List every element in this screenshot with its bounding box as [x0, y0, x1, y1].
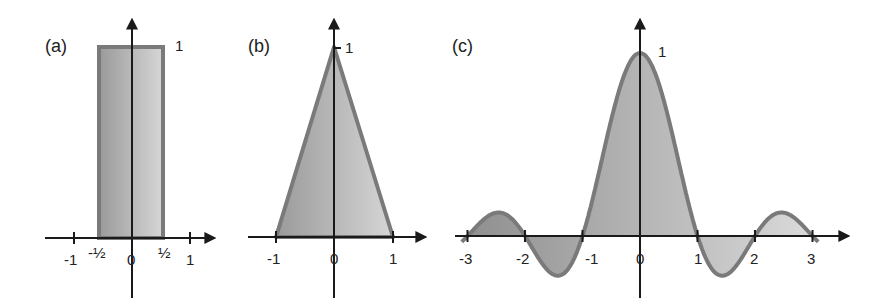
- tick-label: -1: [267, 250, 280, 267]
- tick-label: 0: [127, 251, 135, 268]
- tick-label: 3: [807, 250, 815, 267]
- tick-label: 1: [694, 250, 702, 267]
- tick-label: ½: [158, 244, 171, 261]
- panel-b-label: (b): [248, 36, 270, 56]
- tick-label: 1: [186, 251, 194, 268]
- peak-label: 1: [175, 37, 183, 54]
- tick-label: -3: [459, 250, 472, 267]
- panel-a-label: (a): [45, 36, 67, 56]
- panel-a: (a) 1 -1 -½ 0 ½ 1: [45, 20, 214, 298]
- tick-label: 0: [636, 250, 644, 267]
- panel-b: (b) 1 -1 0 1: [248, 20, 425, 298]
- panel-c: (c) 1 -3 -2 -1 0 1 2 3: [452, 20, 848, 298]
- peak-label: 1: [345, 39, 353, 56]
- tick-label: -1: [585, 250, 598, 267]
- panel-c-label: (c): [452, 36, 473, 56]
- tick-label: -1: [64, 251, 77, 268]
- figure-canvas: (a) 1 -1 -½ 0 ½ 1 (b) 1 -1 0 1 (c) 1 -3: [0, 0, 886, 304]
- tick-label: 1: [389, 250, 397, 267]
- tick-label: -½: [88, 244, 106, 261]
- tick-label: 2: [750, 250, 758, 267]
- peak-label: 1: [658, 43, 666, 60]
- tick-label: 0: [330, 250, 338, 267]
- tick-label: -2: [516, 250, 529, 267]
